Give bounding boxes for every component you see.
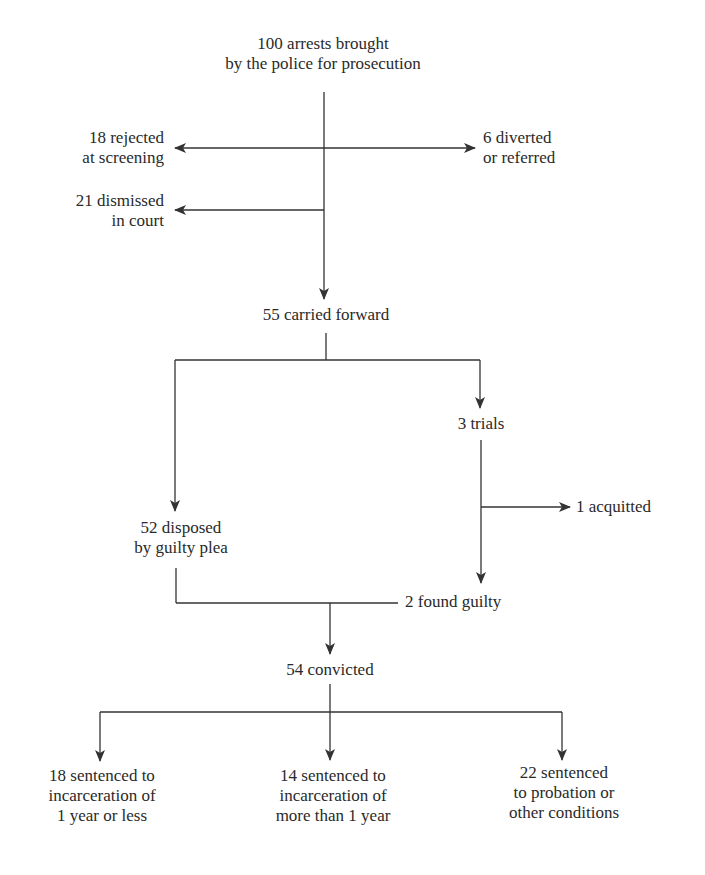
node-guilty-plea: 52 disposed by guilty plea bbox=[134, 518, 227, 558]
node-dismissed-line-1: 21 dismissed bbox=[76, 191, 164, 211]
node-found-guilty: 2 found guilty bbox=[405, 592, 501, 612]
node-dismissed-line-2: in court bbox=[76, 211, 164, 231]
node-sentenced-probation: 22 sentenced to probation or other condi… bbox=[509, 763, 619, 823]
node-sentenced-long-line-3: more than 1 year bbox=[276, 806, 391, 826]
node-guilty-plea-line-2: by guilty plea bbox=[134, 538, 227, 558]
node-sentenced-probation-line-1: 22 sentenced bbox=[509, 763, 619, 783]
node-guilty-plea-line-1: 52 disposed bbox=[134, 518, 227, 538]
node-diverted-line-2: or referred bbox=[483, 148, 555, 168]
node-trials: 3 trials bbox=[458, 414, 505, 434]
node-arrests: 100 arrests brought by the police for pr… bbox=[225, 34, 420, 74]
node-rejected: 18 rejected at screening bbox=[82, 128, 164, 168]
node-acquitted-line-1: 1 acquitted bbox=[576, 497, 651, 517]
node-diverted: 6 diverted or referred bbox=[483, 128, 555, 168]
node-sentenced-short-line-3: 1 year or less bbox=[48, 806, 155, 826]
node-rejected-line-2: at screening bbox=[82, 148, 164, 168]
node-sentenced-long-line-2: incarceration of bbox=[276, 786, 391, 806]
node-acquitted: 1 acquitted bbox=[576, 497, 651, 517]
node-diverted-line-1: 6 diverted bbox=[483, 128, 555, 148]
node-arrests-line-2: by the police for prosecution bbox=[225, 54, 420, 74]
node-dismissed: 21 dismissed in court bbox=[76, 191, 164, 231]
node-arrests-line-1: 100 arrests brought bbox=[225, 34, 420, 54]
node-sentenced-long-line-1: 14 sentenced to bbox=[276, 766, 391, 786]
node-sentenced-probation-line-2: to probation or bbox=[509, 783, 619, 803]
node-sentenced-probation-line-3: other conditions bbox=[509, 803, 619, 823]
node-convicted: 54 convicted bbox=[286, 660, 373, 680]
node-rejected-line-1: 18 rejected bbox=[82, 128, 164, 148]
node-carried-forward-line-1: 55 carried forward bbox=[263, 305, 390, 325]
node-found-guilty-line-1: 2 found guilty bbox=[405, 592, 501, 612]
node-sentenced-short-line-1: 18 sentenced to bbox=[48, 766, 155, 786]
node-sentenced-short: 18 sentenced to incarceration of 1 year … bbox=[48, 766, 155, 826]
node-sentenced-short-line-2: incarceration of bbox=[48, 786, 155, 806]
node-carried-forward: 55 carried forward bbox=[263, 305, 390, 325]
node-sentenced-long: 14 sentenced to incarceration of more th… bbox=[276, 766, 391, 826]
node-convicted-line-1: 54 convicted bbox=[286, 660, 373, 680]
node-trials-line-1: 3 trials bbox=[458, 414, 505, 434]
